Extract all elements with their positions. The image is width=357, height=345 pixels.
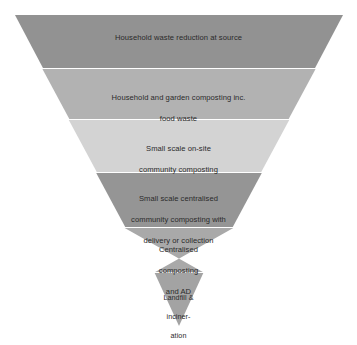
pyramid-band-5 [125,228,234,272]
pyramid-band-4 [96,173,262,227]
pyramid-shape [0,0,357,345]
pyramid-band-6 [155,273,204,326]
waste-hierarchy-pyramid-diagram: Household waste reduction at source Hous… [0,0,357,345]
pyramid-band-3 [69,120,289,172]
pyramid-band-1 [15,15,343,68]
pyramid-band-2 [42,69,315,119]
